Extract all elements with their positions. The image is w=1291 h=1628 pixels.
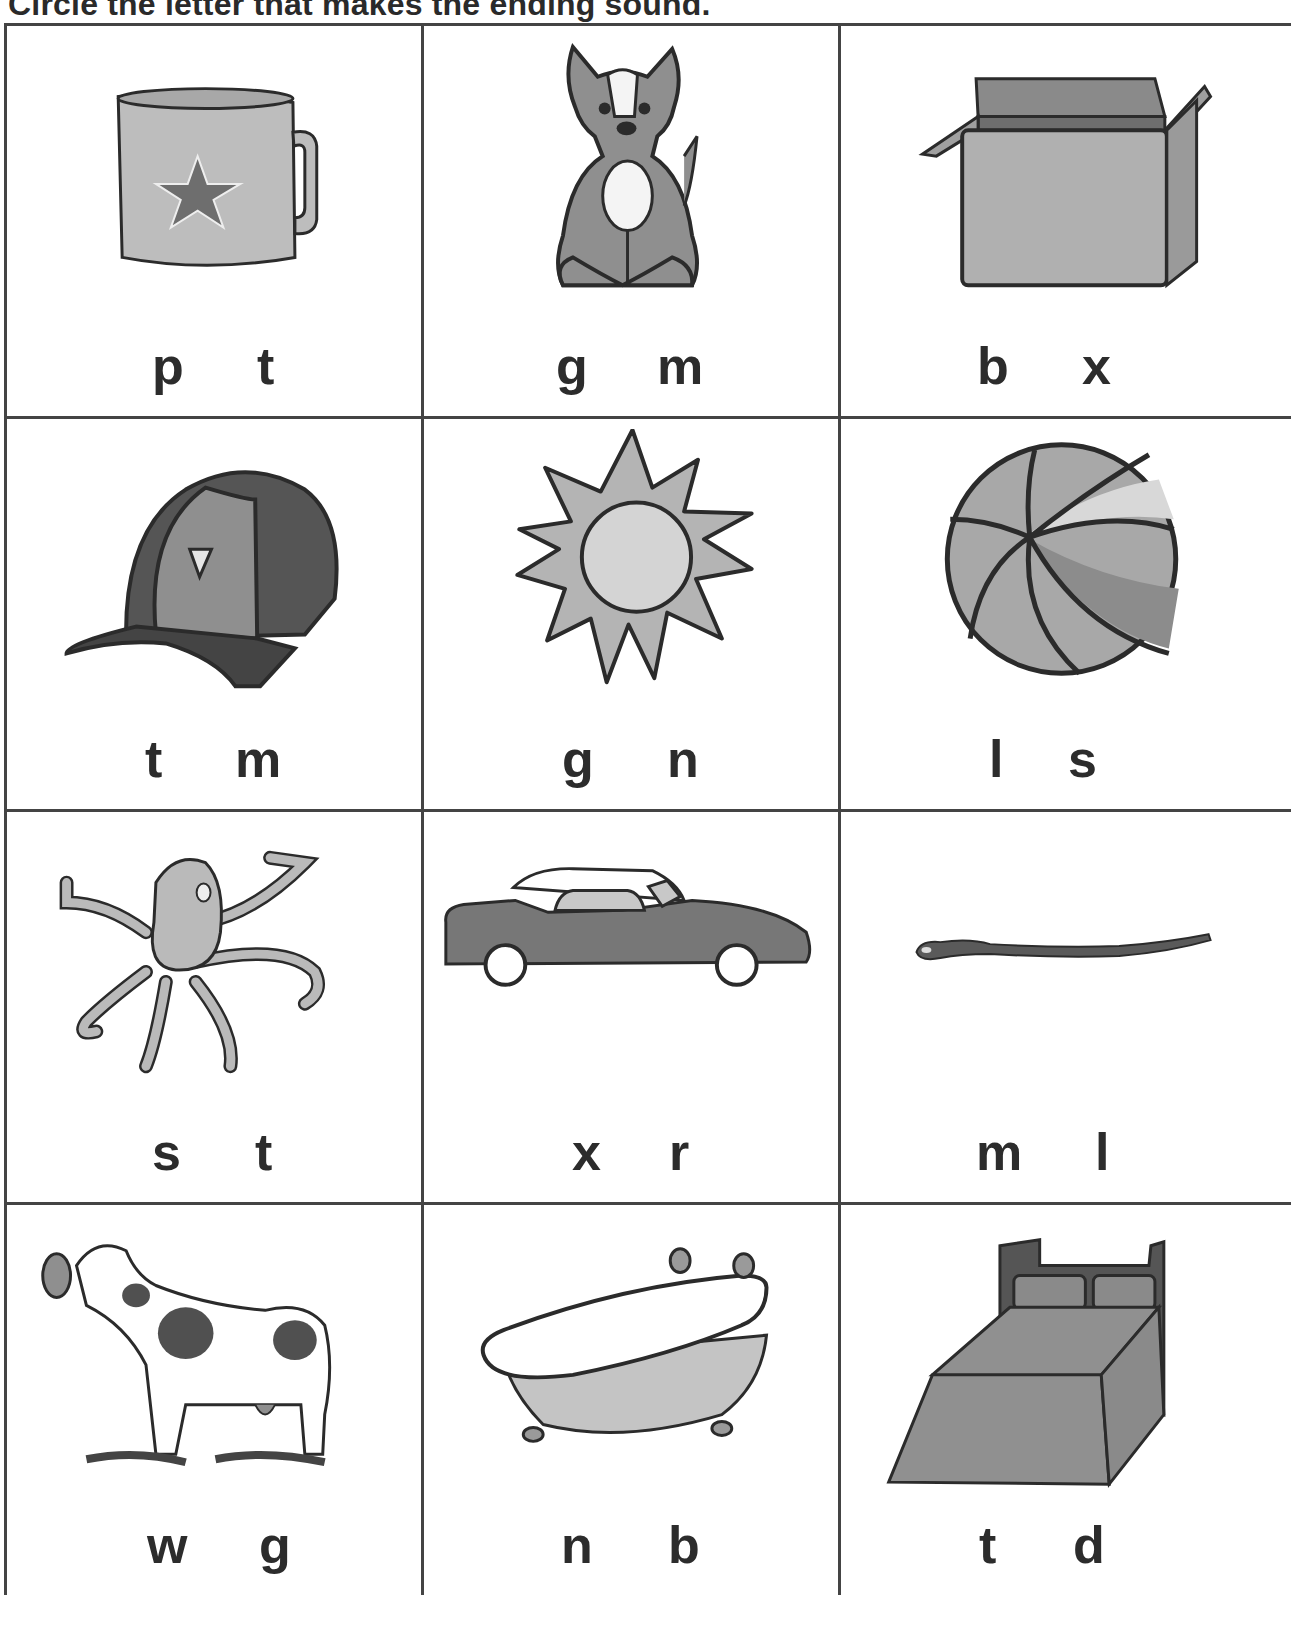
cell-worm: m l [838, 809, 1291, 1202]
letter-choices: w g [7, 1515, 421, 1575]
cell-car: x r [421, 809, 838, 1202]
letter-choices: x r [424, 1122, 838, 1182]
cell-hat: t m [4, 416, 421, 809]
letter-choices: b x [841, 336, 1255, 396]
letter-choices: g n [424, 729, 838, 789]
cell-cow: w g [4, 1202, 421, 1595]
cell-mug: p t [4, 23, 421, 416]
box-icon [841, 36, 1291, 316]
letter-choice[interactable]: x [1082, 336, 1111, 396]
letter-choices: l s [841, 729, 1255, 789]
cow-icon [7, 1215, 421, 1495]
letter-choice[interactable]: b [977, 336, 1009, 396]
cell-box: b x [838, 23, 1291, 416]
bathtub-icon [424, 1215, 838, 1495]
letter-choice[interactable]: w [147, 1515, 187, 1575]
letter-choices: p t [7, 336, 421, 396]
worksheet-instructions: Circle the letter that makes the ending … [8, 0, 711, 23]
letter-choices: m l [841, 1122, 1255, 1182]
cell-ball: l s [838, 416, 1291, 809]
letter-choices: s t [7, 1122, 421, 1182]
letter-choice[interactable]: t [145, 729, 162, 789]
letter-choice[interactable]: t [979, 1515, 996, 1575]
letter-choice[interactable]: m [657, 336, 703, 396]
letter-choices: t m [7, 729, 421, 789]
letter-choice[interactable]: m [976, 1122, 1022, 1182]
letter-choice[interactable]: s [152, 1122, 181, 1182]
cell-tub: n b [421, 1202, 838, 1595]
dog-icon [424, 36, 838, 316]
letter-choice[interactable]: g [556, 336, 588, 396]
letter-choice[interactable]: g [562, 729, 594, 789]
letter-choice[interactable]: n [667, 729, 699, 789]
letter-choice[interactable]: b [668, 1515, 700, 1575]
letter-choice[interactable]: t [257, 336, 274, 396]
worm-icon [841, 822, 1291, 1102]
letter-choice[interactable]: r [669, 1122, 689, 1182]
cell-bed: t d [838, 1202, 1291, 1595]
cap-icon [7, 429, 421, 709]
letter-choices: g m [424, 336, 838, 396]
letter-choice[interactable]: l [989, 729, 1003, 789]
bed-icon [841, 1215, 1291, 1495]
picture-grid: p t g m [4, 23, 1291, 1628]
sun-icon [424, 429, 838, 709]
car-icon [424, 822, 838, 1102]
letter-choice[interactable]: n [561, 1515, 593, 1575]
letter-choice[interactable]: p [152, 336, 184, 396]
letter-choice[interactable]: m [235, 729, 281, 789]
letter-choice[interactable]: d [1073, 1515, 1105, 1575]
cell-sun: g n [421, 416, 838, 809]
cell-dog: g m [421, 23, 838, 416]
letter-choice[interactable]: s [1068, 729, 1097, 789]
letter-choice[interactable]: g [259, 1515, 291, 1575]
mug-icon [7, 36, 421, 316]
letter-choice[interactable]: x [572, 1122, 601, 1182]
ball-icon [841, 429, 1291, 709]
letter-choices: n b [424, 1515, 838, 1575]
letter-choice[interactable]: t [255, 1122, 272, 1182]
letter-choice[interactable]: l [1095, 1122, 1109, 1182]
letter-choices: t d [841, 1515, 1255, 1575]
cell-octopus: s t [4, 809, 421, 1202]
octopus-icon [7, 822, 421, 1102]
